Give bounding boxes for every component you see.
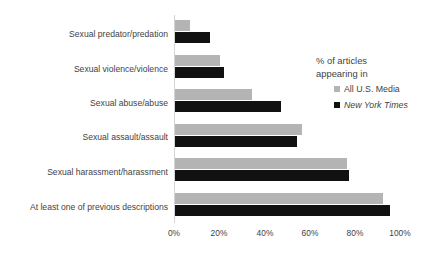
legend-label-all-us-media: All U.S. Media (344, 84, 400, 94)
bar-all-us-media-4 (175, 158, 347, 169)
category-label-sexual-predator-predation: Sexual predator/predation (69, 30, 168, 39)
x-tick-40: 40% (257, 228, 274, 238)
legend-item-new-york-times: New York Times (334, 100, 434, 110)
bar-new-york-times-4 (175, 170, 349, 181)
x-tick-80: 80% (347, 228, 364, 238)
x-tick-100: 100% (389, 228, 410, 238)
nyt-swatch-icon (334, 102, 340, 108)
bar-new-york-times-1 (175, 67, 224, 78)
legend-entries: All U.S. Media New York Times (316, 84, 434, 110)
category-label-sexual-violence-violence: Sexual violence/violence (74, 65, 168, 74)
bar-all-us-media-3 (175, 124, 302, 135)
legend-title-line-2: appearing in (316, 68, 434, 81)
legend-label-new-york-times: New York Times (344, 100, 408, 110)
category-label-sexual-assault-assault: Sexual assault/assault (82, 133, 168, 142)
x-tick-0: 0% (168, 228, 180, 238)
category-label-sexual-harassment: Sexual harassment/harassment (47, 168, 168, 177)
bar-all-us-media-2 (175, 89, 252, 100)
bar-chart: Sexual predator/predation Sexual violenc… (0, 0, 434, 257)
category-label-at-least-one: At least one of previous descriptions (30, 203, 168, 212)
bar-new-york-times-2 (175, 101, 281, 112)
legend-title-line-1: % of articles (316, 55, 434, 68)
bar-all-us-media-1 (175, 55, 220, 66)
plot-area: Sexual predator/predation Sexual violenc… (0, 0, 434, 257)
legend-item-all-us-media: All U.S. Media (334, 84, 434, 94)
legend: % of articles appearing in All U.S. Medi… (316, 55, 434, 116)
bar-all-us-media-0 (175, 20, 190, 31)
bar-new-york-times-3 (175, 136, 297, 147)
bar-new-york-times-0 (175, 32, 210, 43)
x-tick-60: 60% (302, 228, 319, 238)
bar-new-york-times-5 (175, 205, 390, 216)
x-tick-20: 20% (211, 228, 228, 238)
category-label-sexual-abuse-abuse: Sexual abuse/abuse (90, 99, 168, 108)
bar-all-us-media-5 (175, 193, 383, 204)
media-swatch-icon (334, 86, 340, 92)
y-axis-line (174, 15, 175, 223)
